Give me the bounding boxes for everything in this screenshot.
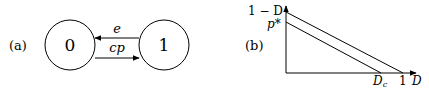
panel-a: (a) 0 1 e cp	[9, 20, 189, 70]
inner-boundary-line	[286, 22, 381, 73]
transition-label-e: e	[113, 21, 121, 36]
figure: (a) 0 1 e cp (b) 1 − D p*	[0, 0, 429, 89]
state-1-label: 1	[159, 35, 170, 55]
outer-boundary-line	[286, 12, 403, 73]
y-axis-top-label: 1 − D	[248, 4, 283, 18]
y-tick-label-pstar: p*	[267, 17, 281, 31]
panel-b: (b) 1 − D p* Dc 1 D	[245, 4, 422, 89]
x-tick-label-dc-sub: c	[383, 80, 388, 89]
transition-label-cp: cp	[109, 40, 125, 55]
state-0-label: 0	[65, 35, 76, 55]
x-tick-label-dc-main: D	[372, 74, 383, 88]
state-0: 0	[45, 20, 95, 70]
x-tick-label-one: 1	[399, 74, 407, 88]
transition-0-to-1: cp	[95, 40, 139, 58]
panel-b-label: (b)	[245, 38, 263, 53]
y-axis-top-label-text: 1 − D	[248, 4, 283, 18]
state-1: 1	[139, 20, 189, 70]
transition-1-to-0: e	[95, 21, 139, 38]
x-tick-label-dc: Dc	[372, 74, 388, 89]
panel-a-label: (a)	[9, 38, 27, 53]
x-axis-label: D	[411, 74, 422, 88]
